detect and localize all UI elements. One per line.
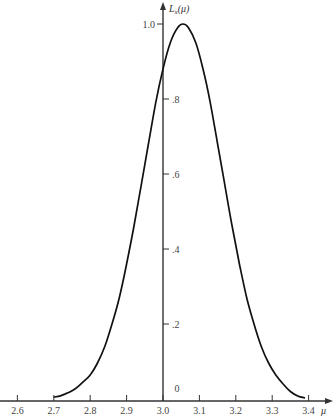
x-tick-label: 2.6 [11, 405, 24, 416]
y-axis-arrow-icon [160, 2, 166, 10]
y-axis-label: Lx(μ) [168, 3, 190, 16]
axis-labels: Lx(μ)μ [168, 3, 326, 416]
x-tick-label: 2.7 [48, 405, 61, 416]
likelihood-curve-path [54, 24, 305, 398]
x-tick-label: 2.9 [120, 405, 133, 416]
likelihood-chart: 2.62.72.82.93.03.13.23.33.4 0.2.4.6.81.0… [0, 0, 335, 419]
x-tick-label: 3.1 [193, 405, 206, 416]
x-tick-label: 3.4 [302, 405, 315, 416]
likelihood-curve [54, 24, 305, 398]
y-tick-label: .6 [172, 169, 180, 180]
x-axis-label: μ [320, 405, 326, 416]
x-tick-label: 2.8 [84, 405, 97, 416]
y-tick-label: .2 [172, 319, 180, 330]
x-tick-label: 3.2 [230, 405, 243, 416]
y-axis: 0.2.4.6.81.0 [143, 2, 180, 401]
x-tick-label: 3.0 [157, 405, 170, 416]
x-tick-label: 3.3 [266, 405, 279, 416]
x-axis-arrow-icon [325, 398, 333, 404]
x-axis: 2.62.72.82.93.03.13.23.33.4 [0, 395, 333, 416]
y-tick-label: .8 [172, 94, 180, 105]
y-tick-label: 1.0 [143, 19, 156, 30]
y-tick-label: .4 [172, 244, 180, 255]
y-tick-label: 0 [175, 383, 180, 394]
